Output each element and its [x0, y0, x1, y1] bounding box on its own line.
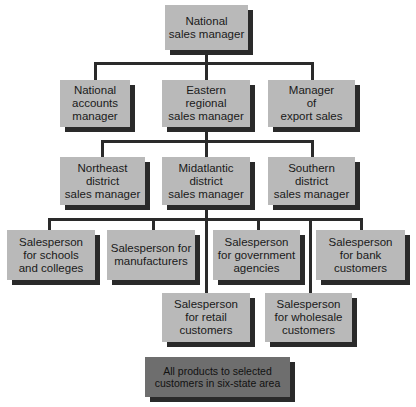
connector-mid: [205, 140, 208, 157]
connector-mfr: [152, 218, 155, 230]
node-midatlantic-district-sales-manager: Midatlantic district sales manager: [162, 157, 250, 205]
node-national-accounts-manager: National accounts manager: [60, 80, 130, 127]
connector-bank: [360, 218, 363, 230]
connector-schools: [48, 218, 51, 230]
footer-note-box: All products to selected customers in si…: [145, 357, 290, 397]
node-southern-district-sales-manager: Southern district sales manager: [268, 157, 355, 205]
connector-na: [94, 62, 97, 80]
connector-wholesale: [309, 218, 312, 293]
connector-ne: [101, 140, 104, 157]
connector-ersm-down: [205, 127, 208, 141]
connector-retail: [205, 218, 208, 293]
node-salesperson-wholesale: Salesperson for wholesale customers: [265, 293, 352, 342]
connector-export: [311, 62, 314, 80]
node-northeast-district-sales-manager: Northeast district sales manager: [60, 157, 145, 205]
node-national-sales-manager: National sales manager: [165, 5, 248, 50]
connector-ersm: [205, 62, 208, 80]
node-salesperson-schools: Salesperson for schools and colleges: [7, 230, 95, 280]
connector-level2-bar: [94, 62, 314, 65]
connector-gov: [257, 218, 260, 230]
node-salesperson-retail: Salesperson for retail customers: [162, 293, 250, 342]
node-eastern-regional-sales-manager: Eastern regional sales manager: [162, 80, 250, 127]
connector-mid-down: [205, 205, 208, 219]
node-salesperson-government: Salesperson for government agencies: [213, 230, 300, 280]
node-manager-export-sales: Manager of export sales: [268, 80, 355, 127]
node-salesperson-bank: Salesperson for bank customers: [316, 230, 405, 280]
connector-south: [311, 140, 314, 157]
node-salesperson-manufacturers: Salesperson for manufacturers: [107, 230, 195, 280]
